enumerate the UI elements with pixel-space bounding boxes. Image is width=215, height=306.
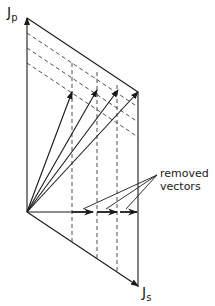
annotation-pointers xyxy=(83,175,157,209)
resultant-vector xyxy=(27,92,138,212)
resultant-vector xyxy=(27,90,118,212)
slanted-dashed-line xyxy=(27,63,138,137)
pointer-line xyxy=(126,175,157,209)
slanted-dashed-line xyxy=(27,33,138,107)
vector-diagram: Jp Js removed vectors xyxy=(0,0,215,306)
pointer-line xyxy=(106,175,157,209)
slanted-dashed-lines xyxy=(27,33,138,137)
js-axis-line xyxy=(27,212,138,286)
removed-vectors-label-line1: removed xyxy=(160,167,209,180)
pointer-line xyxy=(83,175,157,209)
resultant-vector xyxy=(27,90,97,212)
removed-vectors-label-line2: vectors xyxy=(160,180,201,193)
slanted-dashed-line xyxy=(27,48,138,122)
top-edge-line xyxy=(27,18,138,92)
resultant-vector xyxy=(27,92,72,212)
resultant-vectors xyxy=(27,90,138,212)
js-axis-label: Js xyxy=(141,284,151,303)
jp-axis-label: Jp xyxy=(6,4,18,23)
